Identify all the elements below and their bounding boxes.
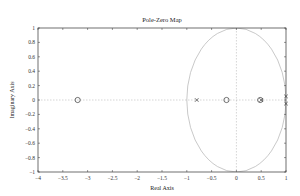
- x-tick-label: 0.5: [258, 175, 265, 181]
- chart-title: Pole-Zero Map: [142, 16, 182, 23]
- x-axis-label: Real Axis: [150, 185, 174, 191]
- y-tick-label: −0.8: [25, 155, 35, 161]
- y-tick-label: 0.8: [28, 39, 35, 45]
- plot-area: −4−3.5−3−2.5−2−1.5−1−0.500.51−1−0.8−0.6−…: [25, 25, 288, 181]
- x-tick-label: −3.5: [58, 175, 68, 181]
- y-tick-label: −0.4: [25, 126, 35, 132]
- x-tick-label: −1.5: [157, 175, 167, 181]
- y-axis-label: Imaginary Axis: [9, 81, 15, 119]
- x-tick-label: 1: [285, 175, 288, 181]
- y-tick-label: −0.6: [25, 140, 35, 146]
- y-tick-label: −0.2: [25, 111, 35, 117]
- x-tick-label: −4: [35, 175, 41, 181]
- x-tick-label: 0: [235, 175, 238, 181]
- x-tick-label: −2.5: [107, 175, 117, 181]
- x-tick-label: −3: [85, 175, 91, 181]
- y-tick-label: 0.6: [28, 54, 35, 60]
- pole-zero-chart: Pole-Zero Map −4−3.5−3−2.5−2−1.5−1−0.500…: [0, 0, 300, 196]
- x-tick-label: −2: [134, 175, 140, 181]
- x-tick-label: −1: [184, 175, 190, 181]
- x-tick-label: −0.5: [207, 175, 217, 181]
- y-tick-label: 0.2: [28, 83, 35, 89]
- y-tick-label: 0: [32, 97, 35, 103]
- y-tick-label: 1: [32, 25, 35, 31]
- y-tick-label: −1: [29, 169, 35, 175]
- y-tick-label: 0.4: [28, 68, 35, 74]
